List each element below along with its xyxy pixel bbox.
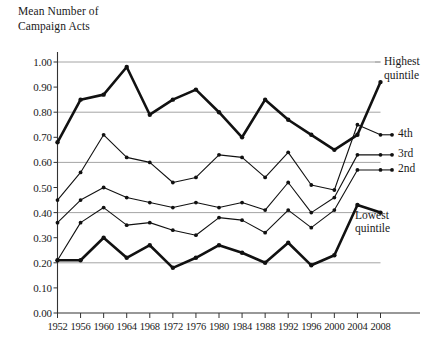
y-tick-label: 1.00 xyxy=(4,56,52,68)
series-label-2nd: 2nd xyxy=(398,162,415,176)
legend-marker-3rd xyxy=(390,153,394,157)
data-point xyxy=(263,231,267,235)
data-point xyxy=(355,203,359,207)
data-point xyxy=(378,80,382,84)
data-point xyxy=(55,258,59,262)
x-tick-label: 2004 xyxy=(347,321,367,332)
series-label-highest-quintile: Highest quintile xyxy=(384,55,420,82)
data-point xyxy=(102,133,106,137)
data-point xyxy=(194,256,198,260)
data-point xyxy=(102,186,106,190)
chart-container: Mean Number of Campaign Acts 0.000.100.2… xyxy=(0,0,437,352)
chart-plot-area xyxy=(0,0,437,352)
series-label-3rd: 3rd xyxy=(398,147,413,161)
x-tick-label: 1964 xyxy=(117,321,137,332)
y-tick-label: 0.30 xyxy=(4,232,52,244)
data-point xyxy=(101,92,105,96)
y-tick-label: 0.10 xyxy=(4,282,52,294)
data-point xyxy=(194,233,198,237)
series-line-5 xyxy=(58,205,381,268)
data-point xyxy=(356,153,360,157)
x-tick-label: 1992 xyxy=(278,321,298,332)
data-point xyxy=(148,243,152,247)
x-tick-label: 1996 xyxy=(301,321,321,332)
data-point xyxy=(240,218,244,222)
data-point xyxy=(102,206,106,210)
data-point xyxy=(194,176,198,180)
data-point xyxy=(286,150,290,154)
data-point xyxy=(171,181,175,185)
data-point xyxy=(356,123,360,127)
data-point xyxy=(171,206,175,210)
y-axis-tick-labels: 0.000.100.200.300.400.500.600.700.800.90… xyxy=(0,0,52,352)
data-point xyxy=(171,97,175,101)
x-tick-label: 1960 xyxy=(94,321,114,332)
data-point xyxy=(78,97,82,101)
x-tick-label: 1952 xyxy=(47,321,67,332)
data-point xyxy=(148,221,152,225)
data-point xyxy=(309,263,313,267)
legend-marker-4th xyxy=(390,133,394,137)
data-point xyxy=(217,153,221,157)
y-tick-label: 0.20 xyxy=(4,257,52,269)
data-point xyxy=(125,155,129,159)
data-point xyxy=(240,251,244,255)
y-tick-label: 0.50 xyxy=(4,182,52,194)
y-tick-label: 0.70 xyxy=(4,131,52,143)
data-point xyxy=(194,201,198,205)
data-point xyxy=(56,198,60,202)
data-point xyxy=(79,221,83,225)
data-point xyxy=(55,140,59,144)
data-point xyxy=(217,216,221,220)
data-point xyxy=(125,65,129,69)
data-point xyxy=(148,161,152,165)
x-tick-label: 2008 xyxy=(370,321,390,332)
x-tick-label: 1956 xyxy=(70,321,90,332)
data-point xyxy=(125,196,129,200)
data-point xyxy=(263,176,267,180)
data-point xyxy=(101,236,105,240)
data-point xyxy=(263,261,267,265)
data-point xyxy=(286,241,290,245)
data-point xyxy=(332,208,336,212)
data-point xyxy=(217,206,221,210)
data-point xyxy=(309,133,313,137)
data-point xyxy=(332,196,336,200)
data-point xyxy=(286,208,290,212)
data-point xyxy=(309,226,313,230)
data-point xyxy=(240,201,244,205)
series-label-4th: 4th xyxy=(398,127,413,141)
data-point xyxy=(332,188,336,192)
data-point xyxy=(286,118,290,122)
data-point xyxy=(148,201,152,205)
y-tick-label: 0.40 xyxy=(4,207,52,219)
data-point xyxy=(125,223,129,227)
y-tick-label: 0.80 xyxy=(4,106,52,118)
series-label-lowest-quintile: Lowest quintile xyxy=(355,209,390,236)
data-point xyxy=(309,183,313,187)
x-tick-label: 1972 xyxy=(163,321,183,332)
data-point xyxy=(240,135,244,139)
data-point xyxy=(78,258,82,262)
data-point xyxy=(355,133,359,137)
data-point xyxy=(217,243,221,247)
data-point xyxy=(263,97,267,101)
data-point xyxy=(263,208,267,212)
data-point xyxy=(356,168,360,172)
data-point xyxy=(309,211,313,215)
data-point xyxy=(171,266,175,270)
y-tick-label: 0.00 xyxy=(4,307,52,319)
y-tick-label: 0.90 xyxy=(4,81,52,93)
legend-marker-2nd xyxy=(390,168,394,172)
x-tick-label: 1988 xyxy=(255,321,275,332)
data-point xyxy=(194,87,198,91)
y-tick-label: 0.60 xyxy=(4,156,52,168)
data-point xyxy=(217,110,221,114)
data-point xyxy=(79,198,83,202)
data-point xyxy=(171,228,175,232)
data-point xyxy=(332,148,336,152)
data-point xyxy=(332,253,336,257)
x-tick-label: 1984 xyxy=(232,321,252,332)
data-point xyxy=(148,113,152,117)
x-tick-label: 1980 xyxy=(209,321,229,332)
